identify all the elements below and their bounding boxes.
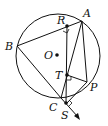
label-S: S	[61, 109, 69, 122]
label-A: A	[82, 7, 91, 20]
label-T: T	[55, 69, 64, 82]
segment-AC	[61, 21, 82, 98]
simson-line	[66, 26, 67, 103]
segment-PT	[67, 75, 87, 82]
label-R: R	[56, 14, 65, 27]
point-O	[55, 53, 59, 57]
right-angle-R	[63, 29, 69, 33]
label-O: O	[44, 49, 53, 62]
label-P: P	[89, 81, 98, 94]
point-T	[65, 73, 69, 77]
point-S	[64, 101, 68, 105]
label-C: C	[49, 101, 58, 114]
geometry-diagram: A B C P O R T S	[0, 0, 108, 126]
point-R	[65, 24, 69, 28]
segment-PS	[67, 82, 87, 103]
segment-AB	[17, 21, 82, 46]
right-angle-S	[69, 100, 72, 106]
segment-AP	[82, 21, 87, 82]
label-B: B	[4, 40, 13, 53]
